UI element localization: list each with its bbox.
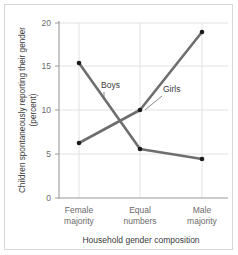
x-category-label-0-line1: Female [65,205,94,215]
y-tick-marks [55,23,59,198]
series-annotation-girls: Girls [163,84,180,94]
y-axis-title-line1: Children spontaneously reporting their g… [18,27,27,193]
x-category-label-2-line2: majority [187,216,218,226]
x-category-label-0-line2: majority [64,216,95,226]
line-chart-plot: 20 15 10 5 0 Boys Girls Female majority [0,0,238,255]
x-axis-title: Household gender composition [82,235,199,245]
horizontal-gridlines [59,23,228,154]
y-tick-label-0: 0 [46,193,51,203]
y-tick-label-15: 15 [42,61,52,71]
y-tick-label-20: 20 [42,18,52,28]
y-tick-label-10: 10 [42,105,52,115]
x-category-label-1-line1: Equal [129,205,151,215]
y-axis-title-line2: (percent) [29,93,38,126]
x-category-label-2-line1: Male [193,205,212,215]
x-category-label-1-line2: numbers [123,216,156,226]
series-annotation-boys: Boys [101,80,120,90]
y-tick-label-5: 5 [46,149,51,159]
girls-leader-line [145,96,162,110]
chart-figure: 20 15 10 5 0 Boys Girls Female majority [0,0,238,255]
